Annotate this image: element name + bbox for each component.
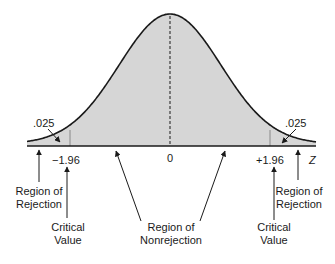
nonrejection-label: Region of Nonrejection xyxy=(138,221,204,247)
z-axis-label: Z xyxy=(309,154,316,167)
left-critical-value-label: −1.96 xyxy=(52,154,80,167)
right-rejection-label: Region of Rejection xyxy=(274,185,324,211)
left-tail-area-label: .025 xyxy=(33,117,54,130)
center-value-label: 0 xyxy=(167,152,173,165)
left-rejection-label: Region of Rejection xyxy=(14,185,64,211)
left-critical-label: Critical Value xyxy=(46,221,90,247)
right-critical-value-label: +1.96 xyxy=(256,154,284,167)
nonrejection-arrow-left xyxy=(116,151,141,221)
right-critical-label: Critical Value xyxy=(252,221,296,247)
right-tail-area-label: .025 xyxy=(285,117,306,130)
nonrejection-arrow-right xyxy=(200,151,225,221)
